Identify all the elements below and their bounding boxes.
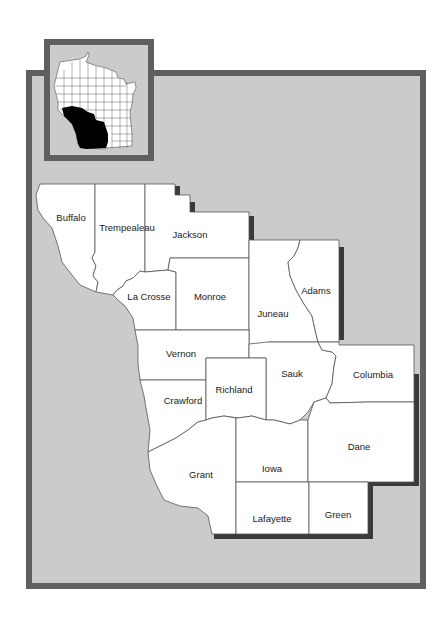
label-jackson: Jackson [173,229,208,240]
label-buffalo: Buffalo [56,212,85,223]
label-lacrosse: La Crosse [127,291,170,302]
label-green: Green [325,509,351,520]
county-dane[interactable] [308,398,414,482]
inset-locator-map [47,42,151,158]
label-adams: Adams [301,285,331,296]
county-lafayette[interactable] [236,482,309,534]
label-monroe: Monroe [194,291,226,302]
label-grant: Grant [189,469,213,480]
label-columbia: Columbia [353,369,394,380]
label-dane: Dane [348,441,371,452]
county-green[interactable] [309,482,368,534]
label-sauk: Sauk [281,368,303,379]
label-crawford: Crawford [164,395,203,406]
label-iowa: Iowa [262,463,283,474]
label-richland: Richland [216,384,253,395]
label-juneau: Juneau [257,308,288,319]
region-map: Buffalo Trempealeau Jackson La Crosse Mo… [0,0,448,631]
label-vernon: Vernon [166,348,196,359]
label-lafayette: Lafayette [252,513,291,524]
label-trempealeau: Trempealeau [99,222,155,233]
